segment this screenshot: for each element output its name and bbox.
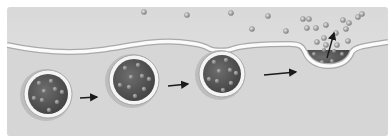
released-particle (249, 26, 254, 31)
released-particle (323, 42, 328, 47)
vesicle-particle (147, 77, 151, 81)
vesicle-particle (53, 87, 57, 91)
arrow-1-icon (80, 97, 97, 98)
vesicle-particle (40, 98, 44, 102)
vesicle-particle (129, 75, 133, 79)
released-particle (343, 26, 348, 31)
vesicle-particle (60, 90, 64, 94)
vesicle-particle (127, 85, 131, 89)
released-particle (321, 35, 326, 40)
vesicle-2 (105, 54, 159, 108)
vesicle-particle (32, 96, 36, 100)
vesicle-particle (55, 100, 59, 104)
released-particle (306, 16, 311, 21)
vesicle-particle (228, 68, 232, 72)
vesicle-particle (47, 108, 51, 112)
vesicle-particle (140, 74, 144, 78)
vesicle-particle (234, 71, 238, 75)
pocket-particle (340, 52, 344, 56)
vesicle-particle (207, 77, 211, 81)
vesicle-particle (136, 63, 140, 67)
pocket-particle (312, 52, 316, 56)
released-particle (359, 11, 364, 16)
released-particle (340, 17, 345, 22)
pocket-particle (332, 49, 336, 53)
released-particle (265, 13, 270, 18)
released-particle (300, 16, 305, 21)
vesicle-particle (49, 79, 53, 83)
released-particle (346, 20, 351, 25)
released-particle (304, 25, 309, 30)
vesicle-3 (195, 50, 245, 100)
released-particle (283, 28, 288, 33)
released-particle (141, 9, 146, 14)
released-particle (345, 38, 350, 43)
pocket-particle (330, 59, 334, 63)
vesicle-particle (118, 83, 122, 87)
vesicle-particle (229, 81, 233, 85)
released-particle (314, 39, 319, 44)
released-particle (323, 22, 328, 27)
vesicle-particle (215, 79, 219, 83)
vesicle-1 (20, 69, 72, 121)
vesicle-particle (37, 81, 41, 85)
vesicle-particle (123, 66, 127, 70)
vesicle-particle (142, 87, 146, 91)
released-particle (334, 42, 339, 47)
vesicle-particle (42, 89, 46, 93)
vesicle-particle (221, 88, 225, 92)
vesicle-particle (133, 94, 137, 98)
vesicle-particle (224, 58, 228, 62)
diagram-canvas (0, 0, 391, 140)
vesicle-particle (217, 69, 221, 73)
released-particle (313, 25, 318, 30)
released-particle (184, 12, 189, 17)
pocket-particle (322, 48, 326, 52)
exocytosis-diagram (0, 0, 391, 140)
released-particle (228, 10, 233, 15)
vesicle-particle (212, 60, 216, 64)
